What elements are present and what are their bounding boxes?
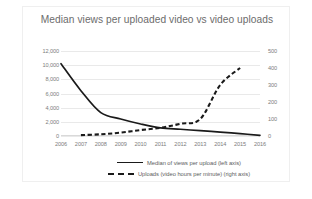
chart-frame: Median views per uploaded video vs video… xyxy=(22,6,290,182)
axis-tick-label: 2006 xyxy=(55,140,67,149)
chart-title: Median views per uploaded video vs video… xyxy=(37,13,277,26)
axis-tick-label: 0 xyxy=(25,132,59,140)
gridline xyxy=(61,136,260,137)
legend-item-median-views[interactable]: Median of views per upload (left axis) xyxy=(23,157,312,168)
axis-tick-label: 2009 xyxy=(115,140,127,149)
axis-tick-label: 2010 xyxy=(135,140,147,149)
axis-tick-label: 10,000 xyxy=(25,61,59,69)
legend-label-median-views: Median of views per upload (left axis) xyxy=(147,160,241,166)
axis-tick-label: 6,000 xyxy=(25,90,59,98)
plot-area xyxy=(61,51,260,136)
axis-tick-label: 0 xyxy=(264,132,294,140)
axis-tick-label: 500 xyxy=(264,47,294,55)
left-axis-tick-labels: 02,0004,0006,0008,00010,00012,000 xyxy=(25,51,59,136)
right-axis-tick-labels: 0100200300400500 xyxy=(264,51,294,136)
series-line-uploads xyxy=(81,68,240,135)
x-axis-tick-labels: 2006200720082009201020112012201320142015… xyxy=(61,140,260,150)
legend-swatch-solid-line-icon xyxy=(117,159,143,167)
chart-legend: Median of views per upload (left axis) U… xyxy=(23,157,312,179)
axis-tick-label: 12,000 xyxy=(25,47,59,55)
legend-label-uploads: Uploads (video hours per minute) (right … xyxy=(138,171,250,177)
series-lines xyxy=(61,51,260,136)
axis-tick-label: 200 xyxy=(264,98,294,106)
axis-tick-label: 4,000 xyxy=(25,104,59,112)
axis-tick-label: 2,000 xyxy=(25,118,59,126)
axis-tick-label: 2012 xyxy=(174,140,186,149)
axis-tick-label: 2007 xyxy=(75,140,87,149)
axis-tick-label: 400 xyxy=(264,64,294,72)
axis-tick-label: 2015 xyxy=(234,140,246,149)
series-line-median-views xyxy=(61,64,260,136)
legend-swatch-dashed-line-icon xyxy=(108,170,134,178)
axis-tick-label: 8,000 xyxy=(25,75,59,83)
axis-tick-label: 2013 xyxy=(194,140,206,149)
axis-tick-label: 2016 xyxy=(254,140,266,149)
axis-tick-label: 2008 xyxy=(95,140,107,149)
axis-tick-label: 2011 xyxy=(155,140,167,149)
legend-item-uploads[interactable]: Uploads (video hours per minute) (right … xyxy=(23,168,312,179)
axis-tick-label: 100 xyxy=(264,115,294,123)
axis-tick-label: 2014 xyxy=(214,140,226,149)
axis-tick-label: 300 xyxy=(264,81,294,89)
